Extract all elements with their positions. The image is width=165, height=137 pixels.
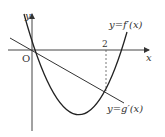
f-prime-label: y=f′(x) — [108, 19, 143, 30]
g-prime-label: y=g′(x) — [106, 103, 143, 114]
x-axis-label: x — [146, 52, 152, 63]
y-axis-label: y — [24, 10, 31, 21]
graph-canvas: y x O 2 y=f′(x) y=g′(x) — [0, 0, 165, 137]
x-tick-label-2: 2 — [102, 39, 108, 49]
origin-label: O — [22, 53, 30, 64]
